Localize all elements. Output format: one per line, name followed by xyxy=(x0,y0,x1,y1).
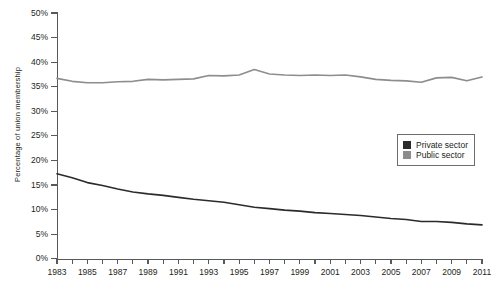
legend-item-private-sector: Private sector xyxy=(403,141,468,150)
legend-item-public-sector: Public sector xyxy=(403,151,468,160)
y-axis-tick xyxy=(51,234,57,235)
y-axis-tick xyxy=(51,184,57,185)
y-axis-tick xyxy=(51,37,57,38)
y-axis-tick xyxy=(51,135,57,136)
y-axis-tick xyxy=(51,209,57,210)
y-axis-tick xyxy=(51,62,57,63)
legend-swatch-private-sector xyxy=(403,141,411,149)
y-axis-tick xyxy=(51,160,57,161)
series-line-public-sector xyxy=(57,70,482,83)
series-line-private-sector xyxy=(57,174,482,225)
legend-swatch-public-sector xyxy=(403,151,411,159)
y-axis-tick xyxy=(51,111,57,112)
legend-label-private-sector: Private sector xyxy=(416,141,468,150)
chart-legend: Private sector Public sector xyxy=(397,134,475,166)
union-membership-line-chart: Percentage of union membership 0%5%10%15… xyxy=(0,0,498,289)
y-axis-tick xyxy=(51,86,57,87)
y-axis-tick xyxy=(51,258,57,259)
legend-label-public-sector: Public sector xyxy=(416,151,465,160)
y-axis-tick xyxy=(51,12,57,13)
